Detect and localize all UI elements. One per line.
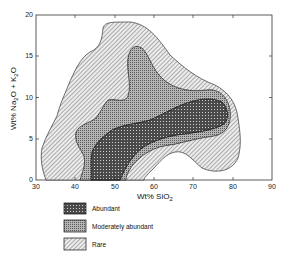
y-tick-label: 20: [25, 11, 33, 18]
y-tick-labels: 0 5 10 15 20: [25, 11, 33, 183]
x-tick-label: 30: [32, 183, 40, 190]
y-axis-label: Wt% Na2O + K2O: [9, 67, 19, 130]
x-tick-labels: 30 40 50 60 70 80 90: [32, 183, 276, 190]
x-tick-label: 40: [71, 183, 79, 190]
y-tick-label: 10: [25, 94, 33, 101]
chart-canvas: 30 40 50 60 70 80 90 0 5 10 15 20 Wt% Si…: [0, 0, 285, 264]
legend-label-rare: Rare: [92, 241, 106, 248]
legend-swatch-abundant: [64, 203, 86, 214]
y-tick-label: 15: [25, 52, 33, 59]
x-tick-label: 80: [229, 183, 237, 190]
x-axis-label: Wt% SiO2: [137, 192, 173, 202]
x-tick-label: 60: [150, 183, 158, 190]
legend-swatch-rare: [64, 238, 86, 250]
x-tick-label: 50: [111, 183, 119, 190]
y-tick-label: 5: [29, 135, 33, 142]
legend-label-moderately-abundant: Moderately abundant: [92, 223, 153, 231]
legend-swatch-moderately-abundant: [64, 220, 86, 232]
legend: Abundant Moderately abundant Rare: [64, 203, 153, 250]
x-tick-label: 70: [189, 183, 197, 190]
y-tick-label: 0: [29, 176, 33, 183]
x-tick-label: 90: [268, 183, 276, 190]
legend-label-abundant: Abundant: [92, 205, 120, 212]
